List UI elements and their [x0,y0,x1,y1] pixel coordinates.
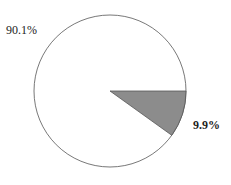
slice-label-large: 90.1% [6,23,37,38]
slice-label-small: 9.9% [193,118,220,133]
